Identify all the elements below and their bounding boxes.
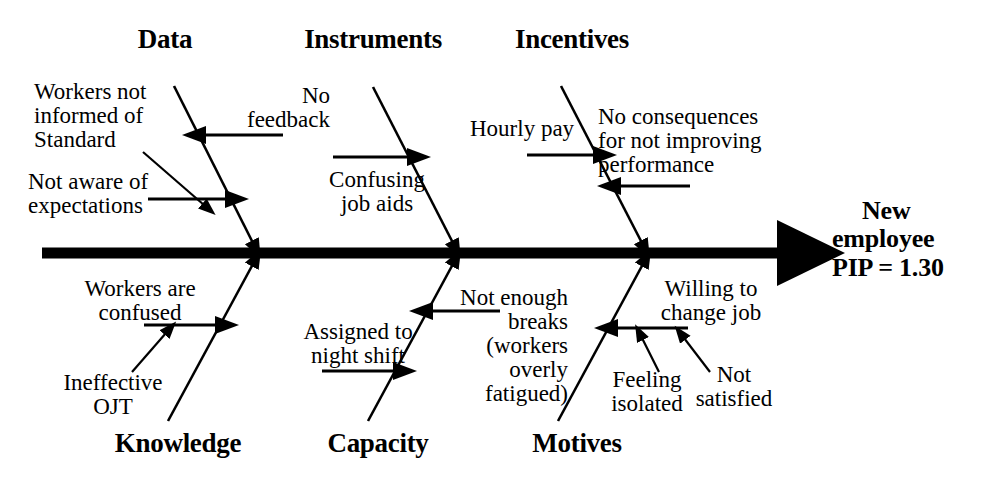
cause-confusing-job-aids: Confusing job aids bbox=[329, 168, 425, 216]
cause-ineffective-ojt: Ineffective OJT bbox=[63, 371, 162, 419]
cause-no-feedback: No feedback bbox=[247, 84, 330, 132]
cause-hourly-pay: Hourly pay bbox=[470, 117, 574, 141]
category-label-knowledge: Knowledge bbox=[115, 429, 241, 457]
cause-feeling-isolated: Feeling isolated bbox=[611, 368, 683, 416]
arrow-ineffective-ojt bbox=[132, 333, 166, 372]
fishbone-diagram-canvas: Data Instruments Incentives Knowledge Ca… bbox=[0, 0, 984, 492]
cause-workers-not-informed: Workers not informed of Standard bbox=[34, 80, 146, 152]
cause-assigned-night-shift: Assigned to night shift bbox=[303, 320, 412, 368]
category-label-incentives: Incentives bbox=[515, 25, 629, 53]
cause-not-enough-breaks: Not enough breaks (workers overly fatigu… bbox=[460, 286, 568, 406]
category-label-data: Data bbox=[138, 25, 192, 53]
cause-willing-change-job: Willing to change job bbox=[661, 277, 761, 325]
cause-not-satisfied: Not satisfied bbox=[696, 363, 773, 411]
category-label-motives: Motives bbox=[532, 429, 621, 457]
category-label-capacity: Capacity bbox=[327, 429, 428, 457]
bone-instruments bbox=[373, 87, 453, 243]
cause-not-aware-expectations: Not aware of expectations bbox=[28, 170, 148, 218]
cause-no-consequences: No consequences for not improving perfor… bbox=[598, 105, 762, 177]
bone-data bbox=[174, 86, 253, 243]
effect-line-3: PIP = 1.30 bbox=[832, 253, 944, 282]
category-label-instruments: Instruments bbox=[304, 25, 442, 53]
arrow-workers-not-informed bbox=[143, 152, 204, 205]
cause-workers-are-confused: Workers are confused bbox=[84, 277, 195, 325]
effect-line-1: New bbox=[862, 196, 911, 225]
effect-line-2: employee bbox=[832, 224, 934, 253]
